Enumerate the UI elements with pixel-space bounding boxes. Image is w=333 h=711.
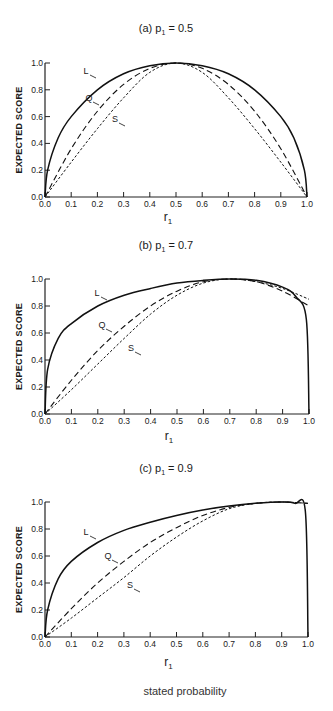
x-tick-label: 0.3 xyxy=(118,639,130,649)
x-tick-label: 0.7 xyxy=(222,199,234,209)
x-tick-label: 0.4 xyxy=(144,199,156,209)
series-label-arrow xyxy=(112,560,118,563)
chart-panel-b: (b) p1 = 0.70.00.20.40.60.81.00.00.10.20… xyxy=(14,239,315,445)
y-tick-label: 0.2 xyxy=(31,605,43,615)
y-tick-label: 0.8 xyxy=(31,301,43,311)
series-label-arrow xyxy=(134,589,140,592)
x-tick-label: 0.6 xyxy=(197,416,209,426)
x-tick-label: 0.5 xyxy=(171,416,183,426)
y-tick-label: 0.4 xyxy=(31,578,43,588)
x-tick-label: 0.2 xyxy=(91,199,103,209)
series-line-S xyxy=(45,502,308,637)
x-tick-label: 0.6 xyxy=(196,199,208,209)
series-line-Q xyxy=(45,63,307,197)
series-label-arrow xyxy=(90,536,96,539)
x-tick-label: 0.1 xyxy=(65,416,77,426)
x-tick-label: 0.2 xyxy=(92,639,104,649)
y-tick-label: 0.6 xyxy=(31,551,43,561)
x-tick-label: 0.3 xyxy=(118,199,130,209)
series-label-S: S xyxy=(127,580,133,590)
x-axis-label: r1 xyxy=(164,210,173,226)
series-line-Q xyxy=(45,502,308,637)
x-tick-label: 0.0 xyxy=(39,416,51,426)
x-tick-label: 0.9 xyxy=(275,199,287,209)
series-label-arrow xyxy=(135,352,141,355)
series-label-Q: Q xyxy=(98,320,105,330)
series-label-arrow xyxy=(93,102,99,105)
x-tick-label: 0.9 xyxy=(277,416,289,426)
x-axis-label: r1 xyxy=(165,429,174,445)
x-tick-label: 1.0 xyxy=(303,416,315,426)
x-tick-label: 0.6 xyxy=(197,639,209,649)
series-label-S: S xyxy=(112,114,118,124)
series-line-S xyxy=(45,279,309,414)
series-line-L xyxy=(45,63,307,197)
x-tick-label: 0.5 xyxy=(171,639,183,649)
x-tick-label: 0.0 xyxy=(39,639,51,649)
x-tick-label: 0.3 xyxy=(118,416,130,426)
series-label-L: L xyxy=(94,288,99,298)
x-axis-label-subscript: 1 xyxy=(168,217,173,226)
x-tick-label: 0.9 xyxy=(276,639,288,649)
x-tick-label: 0.8 xyxy=(249,199,261,209)
chart-panel-a: (a) p1 = 0.50.00.20.40.60.81.00.00.10.20… xyxy=(14,22,313,226)
scoring-rules-figure: (a) p1 = 0.50.00.20.40.60.81.00.00.10.20… xyxy=(0,0,333,711)
chart-title-prefix: (c) p xyxy=(139,462,161,474)
series-label-L: L xyxy=(83,527,88,537)
y-tick-label: 0.8 xyxy=(31,85,43,95)
y-tick-label: 0.4 xyxy=(31,355,43,365)
x-tick-label: 0.4 xyxy=(145,416,157,426)
x-tick-label: 0.7 xyxy=(223,639,235,649)
series-line-Q xyxy=(45,279,309,414)
x-tick-label: 0.8 xyxy=(250,416,262,426)
x-tick-label: 0.5 xyxy=(170,199,182,209)
series-line-S xyxy=(45,63,307,197)
series-line-L xyxy=(45,499,308,637)
y-axis-label: EXPECTED SCORE xyxy=(14,526,24,613)
series-label-arrow xyxy=(119,123,125,126)
chart-title-suffix: = 0.7 xyxy=(165,239,193,251)
series-label-arrow xyxy=(90,75,96,78)
chart-title-prefix: (b) p xyxy=(139,239,162,251)
series-label-Q: Q xyxy=(104,551,111,561)
chart-title: (b) p1 = 0.7 xyxy=(139,239,193,253)
x-axis-label-subscript: 1 xyxy=(169,436,174,445)
footer-label: stated probability xyxy=(143,685,227,697)
y-axis-label: EXPECTED SCORE xyxy=(14,86,24,173)
chart-title: (a) p1 = 0.5 xyxy=(139,22,193,36)
chart-title: (c) p1 = 0.9 xyxy=(139,462,193,476)
y-tick-label: 1.0 xyxy=(31,274,43,284)
x-tick-label: 0.4 xyxy=(144,639,156,649)
x-tick-label: 1.0 xyxy=(302,639,314,649)
chart-title-suffix: = 0.9 xyxy=(165,462,193,474)
x-tick-label: 1.0 xyxy=(301,199,313,209)
x-tick-label: 0.8 xyxy=(249,639,261,649)
x-tick-label: 0.0 xyxy=(39,199,51,209)
x-axis-label-subscript: 1 xyxy=(168,662,173,671)
y-tick-label: 1.0 xyxy=(31,497,43,507)
chart-panel-c: (c) p1 = 0.90.00.20.40.60.81.00.00.10.20… xyxy=(14,462,314,671)
series-label-arrow xyxy=(101,297,107,300)
y-tick-label: 0.2 xyxy=(31,382,43,392)
y-tick-label: 0.4 xyxy=(31,138,43,148)
y-axis-label: EXPECTED SCORE xyxy=(14,303,24,390)
x-tick-label: 0.1 xyxy=(65,199,77,209)
x-tick-label: 0.2 xyxy=(92,416,104,426)
series-line-L xyxy=(45,279,309,414)
chart-title-suffix: = 0.5 xyxy=(165,22,193,34)
y-tick-label: 0.8 xyxy=(31,524,43,534)
series-label-S: S xyxy=(128,343,134,353)
x-tick-label: 0.1 xyxy=(65,639,77,649)
chart-title-prefix: (a) p xyxy=(139,22,162,34)
series-label-arrow xyxy=(106,329,112,332)
series-label-Q: Q xyxy=(85,93,92,103)
y-tick-label: 0.6 xyxy=(31,112,43,122)
series-label-L: L xyxy=(83,66,88,76)
x-axis-label: r1 xyxy=(164,655,173,671)
y-tick-label: 1.0 xyxy=(31,58,43,68)
y-tick-label: 0.2 xyxy=(31,165,43,175)
y-tick-label: 0.6 xyxy=(31,328,43,338)
x-tick-label: 0.7 xyxy=(224,416,236,426)
